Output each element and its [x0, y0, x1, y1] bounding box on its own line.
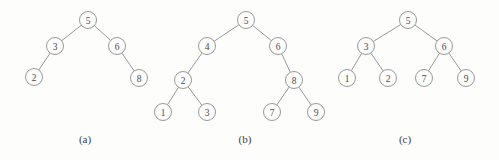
tree-panel-c: 5361279 [339, 12, 475, 87]
tree-panel-b: 546281379 [155, 12, 325, 121]
tree-edge [415, 25, 437, 41]
tree-node[interactable]: 5 [238, 12, 255, 29]
tree-node[interactable]: 9 [458, 70, 475, 87]
tree-node[interactable]: 9 [308, 104, 325, 121]
node-label: 5 [406, 16, 411, 26]
caption-panel-c: (c) [385, 133, 425, 145]
node-label: 3 [205, 108, 210, 118]
tree-node[interactable]: 6 [109, 38, 126, 55]
tree-edge [94, 26, 110, 41]
node-label: 2 [181, 76, 186, 86]
tree-edge [373, 24, 401, 41]
tree-edge [277, 87, 289, 105]
tree-node[interactable]: 6 [270, 38, 287, 55]
tree-edge [253, 25, 272, 40]
node-label: 7 [270, 108, 275, 118]
tree-edge [449, 53, 461, 71]
tree-node[interactable]: 3 [199, 104, 216, 121]
tree-edge [299, 87, 311, 105]
tree-node[interactable]: 1 [155, 104, 172, 121]
node-label: 8 [292, 76, 297, 86]
tree-edge [62, 25, 82, 40]
tree-node[interactable]: 8 [286, 72, 303, 89]
tree-edge [39, 53, 50, 70]
node-label: 9 [314, 108, 319, 118]
node-label: 7 [422, 74, 427, 84]
caption-panel-a: (a) [65, 133, 105, 145]
tree-edge [351, 53, 361, 70]
node-label: 5 [244, 16, 249, 26]
node-label: 2 [386, 74, 391, 84]
node-label: 3 [53, 42, 58, 52]
tree-node[interactable]: 3 [358, 38, 375, 55]
tree-node[interactable]: 5 [80, 12, 97, 29]
tree-edge [214, 25, 239, 42]
tree-panel-a: 53628 [26, 12, 148, 87]
tree-edge [168, 87, 179, 105]
tree-node[interactable]: 1 [339, 70, 356, 87]
node-label: 3 [364, 42, 369, 52]
node-label: 6 [115, 42, 120, 52]
caption-panel-b: (b) [225, 133, 265, 145]
tree-edge [122, 53, 134, 71]
tree-edge [429, 53, 440, 71]
tree-edge [188, 53, 202, 73]
tree-node[interactable]: 2 [380, 70, 397, 87]
binary-tree-figure: 536285462813795361279 (a) (b) (c) [0, 0, 499, 160]
node-label: 2 [32, 73, 37, 83]
node-label: 8 [137, 74, 142, 84]
tree-node[interactable]: 8 [131, 70, 148, 87]
node-label: 1 [161, 108, 166, 118]
tree-node[interactable]: 2 [26, 69, 43, 86]
tree-edge [282, 54, 291, 73]
tree-edge [371, 53, 383, 71]
node-label: 6 [442, 42, 447, 52]
node-label: 9 [464, 74, 469, 84]
tree-node[interactable]: 4 [199, 38, 216, 55]
node-label: 6 [276, 42, 281, 52]
tree-node[interactable]: 7 [264, 104, 281, 121]
tree-edge [188, 87, 202, 105]
tree-node[interactable]: 6 [436, 38, 453, 55]
node-label: 4 [205, 42, 210, 52]
tree-node[interactable]: 3 [47, 38, 64, 55]
tree-node[interactable]: 5 [400, 12, 417, 29]
tree-node[interactable]: 2 [175, 72, 192, 89]
tree-node[interactable]: 7 [416, 70, 433, 87]
node-label: 5 [86, 16, 91, 26]
node-label: 1 [345, 74, 350, 84]
